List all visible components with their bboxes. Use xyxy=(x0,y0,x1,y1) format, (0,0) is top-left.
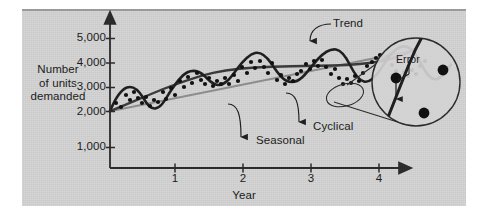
y-tick-label-1000: 1,000 xyxy=(62,140,106,152)
x-tick-label-3: 3 xyxy=(298,172,324,184)
y-tick-label-5000: 5,000 xyxy=(62,31,106,43)
figure-container: Number of units demanded 5,000 4,000 3,0… xyxy=(0,0,487,218)
seasonal-leader xyxy=(228,104,241,137)
y-tick-label-4000: 4,000 xyxy=(62,56,106,68)
y-tick-label-2000: 2,000 xyxy=(62,105,106,117)
x-tick-label-2: 2 xyxy=(230,172,256,184)
magnified-data-point-bottom xyxy=(419,108,430,119)
y-axis-label-line-3: demanded xyxy=(22,90,94,104)
x-tick-label-1: 1 xyxy=(162,172,188,184)
trend-leader xyxy=(310,24,331,41)
magnified-data-point-right xyxy=(438,65,449,76)
cyclical-leader xyxy=(286,93,299,122)
magnified-data-point-left xyxy=(391,73,402,84)
annotation-trend: Trend xyxy=(333,17,363,29)
x-tick-label-4: 4 xyxy=(366,172,392,184)
annotation-cyclical: Cyclical xyxy=(313,120,353,132)
x-axis-label: Year xyxy=(209,189,279,201)
annotation-seasonal: Seasonal xyxy=(256,134,305,146)
magnifier-source-ellipse xyxy=(324,79,367,111)
y-tick-label-3000: 3,000 xyxy=(62,80,106,92)
annotation-error: Error xyxy=(396,53,420,65)
